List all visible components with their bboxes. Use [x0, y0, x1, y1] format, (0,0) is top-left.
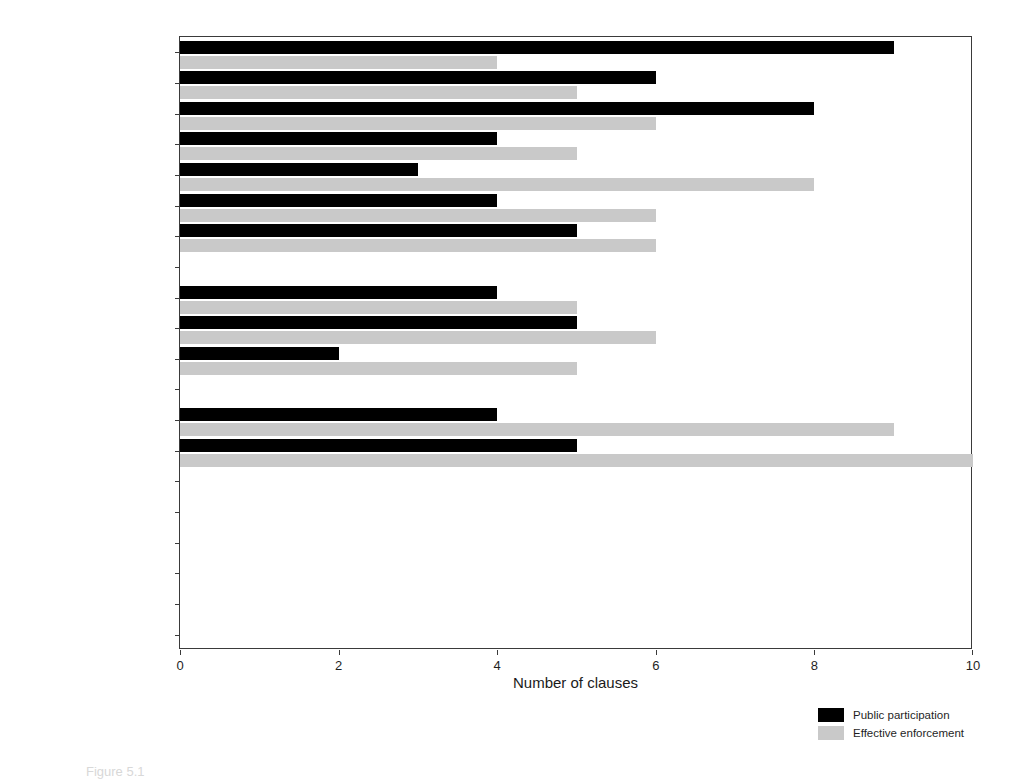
bar-peru-2008-public-participation — [180, 316, 577, 329]
y-axis-tick-honduras-2013 — [175, 175, 180, 176]
y-axis-tick-australia-1960 — [175, 573, 180, 574]
bar-panama-2010-public-participation — [180, 194, 497, 207]
chart-legend: Public participation Effective enforceme… — [818, 706, 964, 742]
y-axis-tick-efta-2008 — [175, 267, 180, 268]
y-axis-tick-nafta-1992 — [175, 451, 180, 452]
x-axis-tick-0 — [180, 650, 181, 655]
x-axis-ticklabel-8: 8 — [811, 658, 818, 673]
y-axis-tick-chile-1996 — [175, 420, 180, 421]
legend-swatch-icon-public-participation — [818, 708, 844, 722]
y-axis-tick-korea-2014 — [175, 144, 180, 145]
y-axis-tick-united-states-1988 — [175, 481, 180, 482]
x-axis-tick-6 — [656, 650, 657, 655]
y-axis-tick-european-union-2016 — [175, 52, 180, 53]
bar-nafta-1992-public-participation — [180, 439, 577, 452]
bar-european-union-2016-effective-enforcement — [180, 56, 497, 69]
bar-european-union-2016-public-participation — [180, 41, 894, 54]
y-axis-tick-costa-rica-2001 — [175, 359, 180, 360]
y-axis-tick-portugal-1954 — [175, 635, 180, 636]
bar-group-portugal-1954 — [180, 619, 971, 656]
bar-tpp-2016-public-participation — [180, 102, 814, 115]
y-axis-tick-spain-1954 — [175, 604, 180, 605]
bar-colombia-2008-effective-enforcement — [180, 301, 577, 314]
bar-panama-2010-effective-enforcement — [180, 209, 656, 222]
y-axis-tick-panama-2010 — [175, 206, 180, 207]
bar-costa-rica-2001-effective-enforcement — [180, 362, 577, 375]
bar-honduras-2013-public-participation — [180, 163, 418, 176]
bar-peru-2008-effective-enforcement — [180, 331, 656, 344]
y-axis-tick-apta-1965 — [175, 543, 180, 544]
x-axis-ticklabel-6: 6 — [652, 658, 659, 673]
x-axis-tick-8 — [814, 650, 815, 655]
legend-item-effective-enforcement: Effective enforcement — [818, 724, 964, 742]
bar-korea-2014-effective-enforcement — [180, 147, 577, 160]
y-axis-tick-peru-2008 — [175, 328, 180, 329]
y-axis-tick-ukraine-2016 — [175, 83, 180, 84]
bar-jordan-2009-public-participation — [180, 224, 577, 237]
x-axis-tick-2 — [339, 650, 340, 655]
bar-costa-rica-2001-public-participation — [180, 347, 339, 360]
plot-area: European Union 2016Ukraine 2016TPP 2016K… — [179, 36, 972, 649]
legend-item-public-participation: Public participation — [818, 706, 964, 724]
bar-ukraine-2016-public-participation — [180, 71, 656, 84]
x-axis-title: Number of clauses — [179, 674, 972, 691]
x-axis-tick-10 — [972, 650, 973, 655]
legend-label-public-participation: Public participation — [853, 709, 950, 721]
x-axis-ticklabel-0: 0 — [176, 658, 183, 673]
bar-tpp-2016-effective-enforcement — [180, 117, 656, 130]
figure-caption: Figure 5.1 — [86, 764, 145, 779]
bar-chile-1996-public-participation — [180, 408, 497, 421]
y-axis-tick-jordan-2009 — [175, 236, 180, 237]
x-axis-ticklabel-2: 2 — [335, 658, 342, 673]
y-axis-tick-colombia-2008 — [175, 298, 180, 299]
bar-chile-1996-effective-enforcement — [180, 423, 894, 436]
legend-label-effective-enforcement: Effective enforcement — [853, 727, 964, 739]
x-axis-tick-4 — [497, 650, 498, 655]
bar-ukraine-2016-effective-enforcement — [180, 86, 577, 99]
bar-korea-2014-public-participation — [180, 132, 497, 145]
legend-swatch-icon-effective-enforcement — [818, 726, 844, 740]
x-axis-ticklabel-10: 10 — [966, 658, 980, 673]
y-axis-tick-new-zealand-1981 — [175, 512, 180, 513]
y-axis-tick-israel-1996 — [175, 389, 180, 390]
bar-jordan-2009-effective-enforcement — [180, 239, 656, 252]
y-axis-tick-tpp-2016 — [175, 114, 180, 115]
bar-honduras-2013-effective-enforcement — [180, 178, 814, 191]
bar-nafta-1992-effective-enforcement — [180, 454, 973, 467]
x-axis-ticklabel-4: 4 — [494, 658, 501, 673]
bar-colombia-2008-public-participation — [180, 286, 497, 299]
